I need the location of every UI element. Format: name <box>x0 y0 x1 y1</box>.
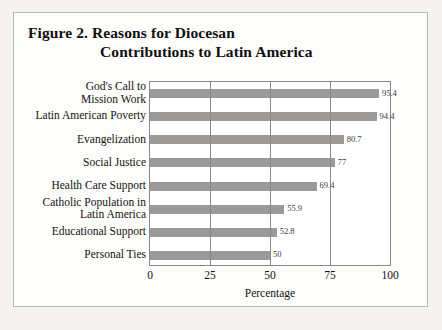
value-label: 80.7 <box>347 134 362 144</box>
bar-chart: God's Call to Mission WorkLatin American… <box>14 71 429 306</box>
gridline-25 <box>210 82 211 265</box>
value-label: 77 <box>338 157 347 167</box>
value-label: 52.8 <box>280 226 295 236</box>
gridline-50 <box>270 82 271 265</box>
bar <box>150 205 284 214</box>
bar <box>150 89 379 98</box>
category-label: Catholic Population in Latin America <box>0 196 146 221</box>
x-tick-75: 75 <box>324 269 336 281</box>
x-tick-25: 25 <box>204 269 216 281</box>
x-axis-ticks: 0255075100 <box>149 269 391 285</box>
category-label: God's Call to Mission Work <box>0 80 146 105</box>
x-axis-title: Percentage <box>149 287 391 299</box>
value-label: 55.9 <box>287 203 302 213</box>
bar <box>150 228 277 237</box>
category-label: Social Justice <box>0 156 146 169</box>
gridline-75 <box>330 82 331 265</box>
figure-container: Figure 2. Reasons for Diocesan Contribut… <box>13 12 428 307</box>
figure-title-line-2: Contributions to Latin America <box>28 42 418 61</box>
value-label: 94.4 <box>380 111 395 121</box>
value-label: 50 <box>273 249 282 259</box>
plot-area <box>149 81 391 266</box>
x-tick-50: 50 <box>264 269 276 281</box>
bar <box>150 112 377 121</box>
bar <box>150 158 335 167</box>
category-label: Evangelization <box>0 133 146 146</box>
figure-title: Figure 2. Reasons for Diocesan Contribut… <box>28 23 418 61</box>
category-label: Latin American Poverty <box>0 109 146 122</box>
category-label: Personal Ties <box>0 248 146 261</box>
category-label: Educational Support <box>0 225 146 238</box>
figure-title-line-1: Figure 2. Reasons for Diocesan <box>28 23 418 42</box>
value-label: 95.4 <box>382 88 397 98</box>
x-tick-0: 0 <box>147 269 153 281</box>
value-label: 69.4 <box>320 180 335 190</box>
category-label: Health Care Support <box>0 179 146 192</box>
bar <box>150 135 344 144</box>
x-tick-100: 100 <box>381 269 398 281</box>
bar <box>150 182 317 191</box>
